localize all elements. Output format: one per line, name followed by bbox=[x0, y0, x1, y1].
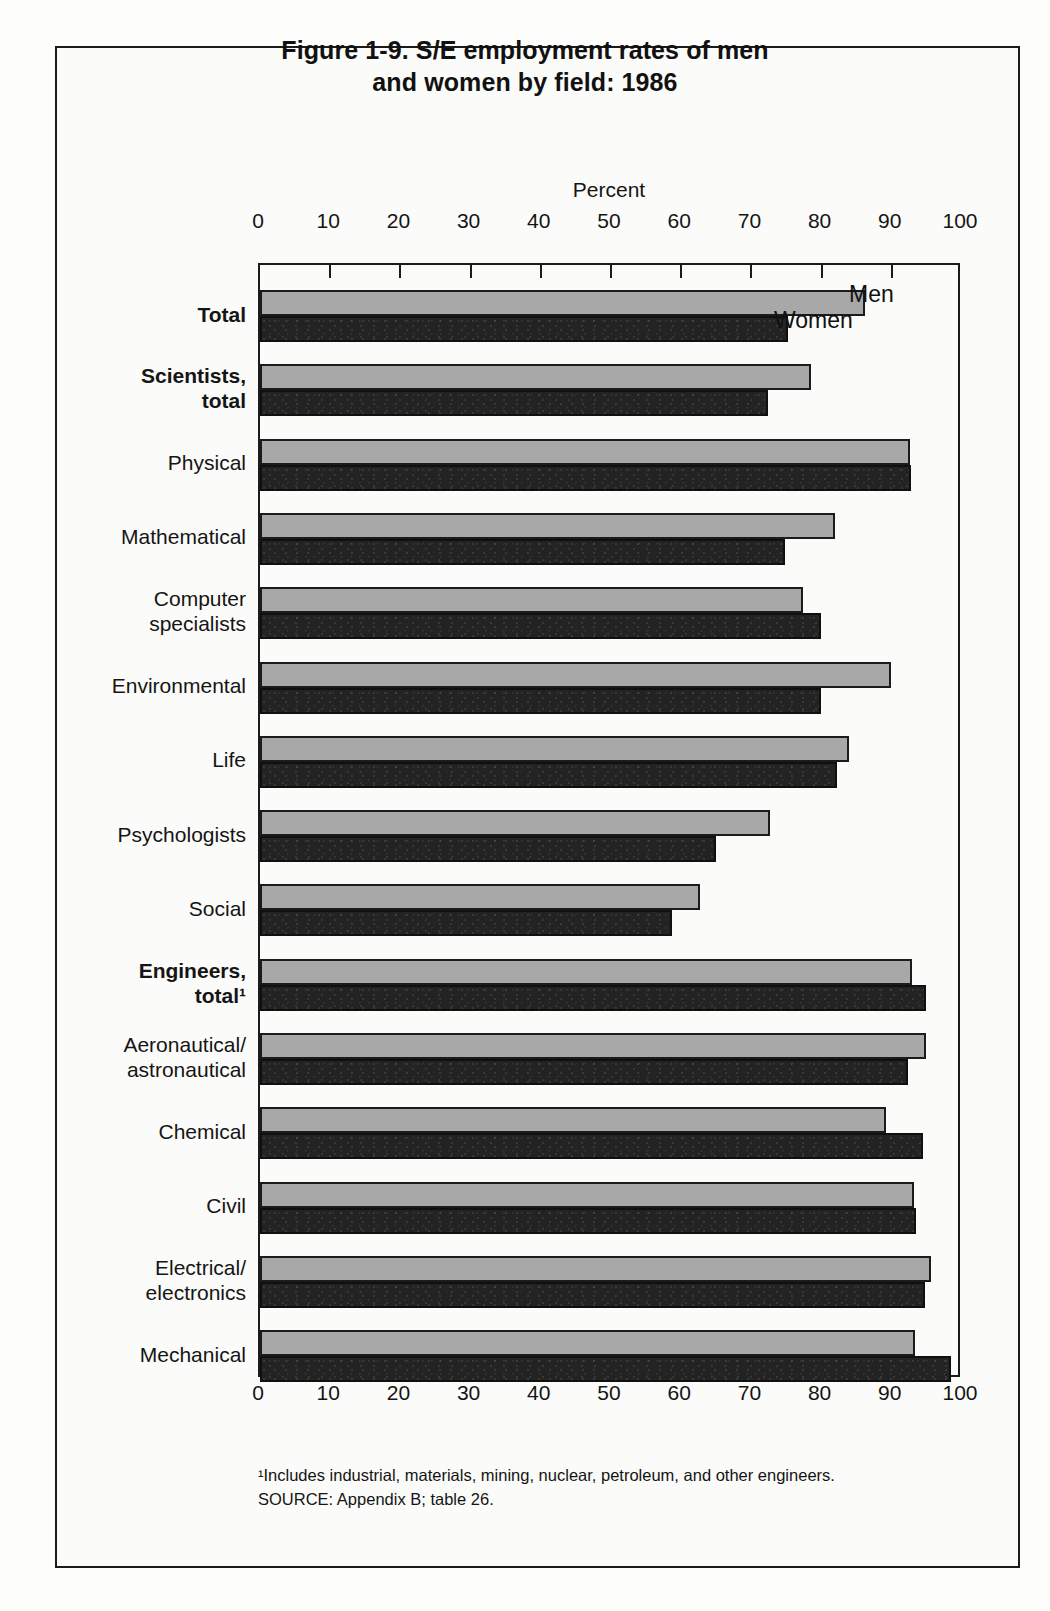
x-tick-label: 80 bbox=[808, 1381, 831, 1405]
x-tick-label: 30 bbox=[457, 1381, 480, 1405]
bar-women bbox=[260, 465, 911, 491]
x-tick-label: 70 bbox=[738, 209, 761, 233]
bar-men bbox=[260, 884, 700, 910]
bar-women bbox=[260, 985, 926, 1011]
bar-men bbox=[260, 959, 912, 985]
x-tick-mark bbox=[891, 265, 893, 278]
bar-group bbox=[260, 364, 958, 416]
category-label: Psychologists bbox=[0, 822, 246, 847]
x-tick-label: 60 bbox=[668, 209, 691, 233]
bar-women bbox=[260, 836, 716, 862]
x-tick-label: 90 bbox=[878, 209, 901, 233]
bar-women bbox=[260, 1356, 951, 1382]
bar-men bbox=[260, 513, 835, 539]
legend-label-women: Women bbox=[774, 307, 853, 334]
bar-men bbox=[260, 1033, 926, 1059]
category-label: Mathematical bbox=[0, 524, 246, 549]
x-tick-mark bbox=[540, 265, 542, 278]
x-tick-label: 50 bbox=[597, 209, 620, 233]
x-tick-label: 100 bbox=[942, 209, 977, 233]
x-axis-title: Percent bbox=[258, 178, 960, 202]
footnote-1: ¹Includes industrial, materials, mining,… bbox=[258, 1463, 958, 1487]
x-tick-mark bbox=[750, 265, 752, 278]
category-label: Social bbox=[0, 896, 246, 921]
x-tick-label: 20 bbox=[387, 209, 410, 233]
x-tick-label: 100 bbox=[942, 1381, 977, 1405]
x-tick-mark bbox=[821, 265, 823, 278]
bar-group bbox=[260, 736, 958, 788]
bar-men bbox=[260, 439, 910, 465]
category-label: Electrical/ electronics bbox=[0, 1255, 246, 1305]
bar-men bbox=[260, 1107, 886, 1133]
bar-group bbox=[260, 587, 958, 639]
x-tick-mark bbox=[680, 265, 682, 278]
bar-group bbox=[260, 810, 958, 862]
bar-women bbox=[260, 688, 821, 714]
x-tick-label: 30 bbox=[457, 209, 480, 233]
category-label: Environmental bbox=[0, 673, 246, 698]
figure-title: Figure 1-9. S/E employment rates of men … bbox=[0, 34, 1050, 98]
x-tick-label: 0 bbox=[252, 209, 264, 233]
x-tick-label: 10 bbox=[317, 1381, 340, 1405]
bar-women bbox=[260, 1059, 908, 1085]
x-tick-label: 90 bbox=[878, 1381, 901, 1405]
bar-women bbox=[260, 613, 821, 639]
x-tick-mark bbox=[329, 265, 331, 278]
bar-women bbox=[260, 539, 785, 565]
category-label: Civil bbox=[0, 1193, 246, 1218]
x-tick-label: 10 bbox=[317, 209, 340, 233]
bar-women bbox=[260, 1282, 925, 1308]
bar-group bbox=[260, 1182, 958, 1234]
category-label: Chemical bbox=[0, 1119, 246, 1144]
bar-men bbox=[260, 364, 811, 390]
category-label: Total bbox=[0, 302, 246, 327]
bar-men bbox=[260, 1256, 931, 1282]
footnote-source: SOURCE: Appendix B; table 26. bbox=[258, 1487, 958, 1511]
x-tick-label: 50 bbox=[597, 1381, 620, 1405]
x-tick-mark bbox=[399, 265, 401, 278]
bar-women bbox=[260, 910, 672, 936]
category-label: Mechanical bbox=[0, 1342, 246, 1367]
bar-group bbox=[260, 662, 958, 714]
x-tick-mark bbox=[470, 265, 472, 278]
x-tick-label: 40 bbox=[527, 1381, 550, 1405]
category-label: Physical bbox=[0, 450, 246, 475]
bar-group bbox=[260, 1330, 958, 1382]
bar-women bbox=[260, 1133, 923, 1159]
bar-group bbox=[260, 439, 958, 491]
x-axis-ticks-bottom: 0102030405060708090100 bbox=[258, 1381, 960, 1407]
bar-group bbox=[260, 1033, 958, 1085]
bar-group bbox=[260, 959, 958, 1011]
bar-women bbox=[260, 762, 837, 788]
legend-label-men: Men bbox=[849, 281, 894, 308]
x-tick-label: 80 bbox=[808, 209, 831, 233]
bar-group bbox=[260, 1256, 958, 1308]
bar-men bbox=[260, 587, 803, 613]
x-tick-label: 20 bbox=[387, 1381, 410, 1405]
bar-group bbox=[260, 884, 958, 936]
bar-group bbox=[260, 513, 958, 565]
bar-men bbox=[260, 1182, 914, 1208]
bar-women bbox=[260, 390, 768, 416]
category-label: Aeronautical/ astronautical bbox=[0, 1032, 246, 1082]
bar-men bbox=[260, 736, 849, 762]
figure-title-line-1: Figure 1-9. S/E employment rates of men bbox=[0, 34, 1050, 66]
x-tick-label: 40 bbox=[527, 209, 550, 233]
figure-footnotes: ¹Includes industrial, materials, mining,… bbox=[258, 1463, 958, 1511]
bar-men bbox=[260, 662, 891, 688]
category-label: Scientists, total bbox=[0, 363, 246, 413]
chart-plot-area bbox=[258, 263, 960, 1377]
x-axis-ticks-top: 0102030405060708090100 bbox=[258, 209, 960, 235]
category-label: Engineers, total¹ bbox=[0, 958, 246, 1008]
figure-title-line-2: and women by field: 1986 bbox=[0, 66, 1050, 98]
bar-women bbox=[260, 316, 788, 342]
bar-women bbox=[260, 1208, 916, 1234]
x-tick-label: 0 bbox=[252, 1381, 264, 1405]
category-label: Life bbox=[0, 747, 246, 772]
x-tick-mark bbox=[610, 265, 612, 278]
bar-men bbox=[260, 810, 770, 836]
x-tick-label: 70 bbox=[738, 1381, 761, 1405]
bar-group bbox=[260, 1107, 958, 1159]
bar-men bbox=[260, 1330, 915, 1356]
x-tick-label: 60 bbox=[668, 1381, 691, 1405]
